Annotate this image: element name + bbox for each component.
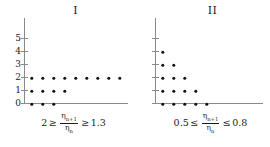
panel-I-caption-numerator: ηn+1 bbox=[60, 112, 78, 124]
panel-I-y-tick-1: 1 bbox=[21, 90, 28, 91]
panel-I-y-tick-label-5: 5 bbox=[15, 34, 21, 43]
panel-I-caption-fraction: ηn+1ηn bbox=[60, 112, 78, 135]
data-point bbox=[74, 76, 77, 79]
panel-I-title: I bbox=[8, 4, 143, 17]
data-point bbox=[183, 76, 186, 79]
data-point bbox=[172, 102, 175, 105]
panel-II-x-axis bbox=[155, 103, 263, 104]
two-panel-scatter-figure: I 0 1 2 3 4 5 2 bbox=[0, 0, 270, 147]
panel-II: II 0.5≤ηn+1ηn≤0.8 bbox=[135, 0, 270, 147]
data-point bbox=[172, 89, 175, 92]
data-point bbox=[161, 76, 164, 79]
panel-II-title: II bbox=[145, 4, 270, 17]
data-point bbox=[52, 76, 55, 79]
data-point bbox=[161, 89, 164, 92]
panel-II-caption-left-value: 0.5 bbox=[174, 117, 189, 128]
data-point bbox=[41, 89, 44, 92]
data-point bbox=[85, 76, 88, 79]
data-point bbox=[63, 89, 66, 92]
data-point bbox=[172, 76, 175, 79]
data-point bbox=[183, 102, 186, 105]
panel-I-y-tick-label-3: 3 bbox=[15, 60, 21, 69]
data-point bbox=[161, 50, 164, 53]
panel-II-caption-denominator: ηn bbox=[202, 124, 220, 135]
panel-I-y-tick-0: 0 bbox=[21, 103, 28, 104]
panel-I-caption-left-value: 2 bbox=[41, 117, 47, 128]
panel-I-caption-left-relation: ≥ bbox=[49, 117, 57, 128]
panel-II-y-tick-3 bbox=[152, 64, 159, 65]
data-point bbox=[161, 63, 164, 66]
data-point bbox=[52, 89, 55, 92]
panel-II-y-tick-2 bbox=[152, 77, 159, 78]
panel-II-y-tick-0 bbox=[152, 103, 159, 104]
data-point bbox=[107, 76, 110, 79]
panel-II-caption-fraction: ηn+1ηn bbox=[202, 112, 220, 135]
panel-I-caption: 2≥ηn+1ηn≥1.3 bbox=[6, 112, 141, 135]
panel-II-caption-right-relation: ≤ bbox=[223, 117, 231, 128]
panel-I-y-tick-2: 2 bbox=[21, 77, 28, 78]
panel-I-y-tick-4: 4 bbox=[21, 51, 28, 52]
data-point bbox=[63, 76, 66, 79]
data-point bbox=[118, 76, 121, 79]
panel-I: I 0 1 2 3 4 5 2 bbox=[0, 0, 135, 147]
panel-I-plot-area: 0 1 2 3 4 5 bbox=[24, 18, 128, 104]
panel-I-y-tick-3: 3 bbox=[21, 64, 28, 65]
data-point bbox=[194, 102, 197, 105]
data-point bbox=[183, 89, 186, 92]
panel-I-y-tick-label-2: 2 bbox=[15, 73, 21, 82]
data-point bbox=[41, 102, 44, 105]
data-point bbox=[30, 102, 33, 105]
data-point bbox=[52, 102, 55, 105]
data-point bbox=[96, 76, 99, 79]
panel-II-caption-right-value: 0.8 bbox=[232, 117, 247, 128]
data-point bbox=[41, 76, 44, 79]
panel-II-caption-left-relation: ≤ bbox=[190, 117, 198, 128]
panel-I-y-tick-5: 5 bbox=[21, 38, 28, 39]
panel-I-y-tick-label-0: 0 bbox=[15, 99, 21, 108]
data-point bbox=[205, 102, 208, 105]
panel-II-y-tick-1 bbox=[152, 90, 159, 91]
panel-I-y-tick-label-1: 1 bbox=[15, 86, 21, 95]
panel-I-x-axis bbox=[24, 103, 128, 104]
panel-I-y-tick-label-4: 4 bbox=[15, 47, 21, 56]
data-point bbox=[161, 102, 164, 105]
panel-II-plot-area bbox=[155, 18, 263, 104]
panel-I-y-axis bbox=[24, 18, 25, 104]
panel-II-caption-numerator: ηn+1 bbox=[202, 112, 220, 124]
panel-II-y-tick-4 bbox=[152, 51, 159, 52]
panel-II-caption: 0.5≤ηn+1ηn≤0.8 bbox=[143, 112, 270, 135]
panel-II-y-tick-5 bbox=[152, 38, 159, 39]
panel-I-caption-denominator: ηn bbox=[60, 124, 78, 135]
data-point bbox=[172, 63, 175, 66]
data-point bbox=[30, 76, 33, 79]
panel-I-caption-right-relation: ≥ bbox=[81, 117, 89, 128]
data-point bbox=[194, 89, 197, 92]
panel-II-y-axis bbox=[155, 18, 156, 104]
panel-I-caption-right-value: 1.3 bbox=[91, 117, 106, 128]
data-point bbox=[30, 89, 33, 92]
